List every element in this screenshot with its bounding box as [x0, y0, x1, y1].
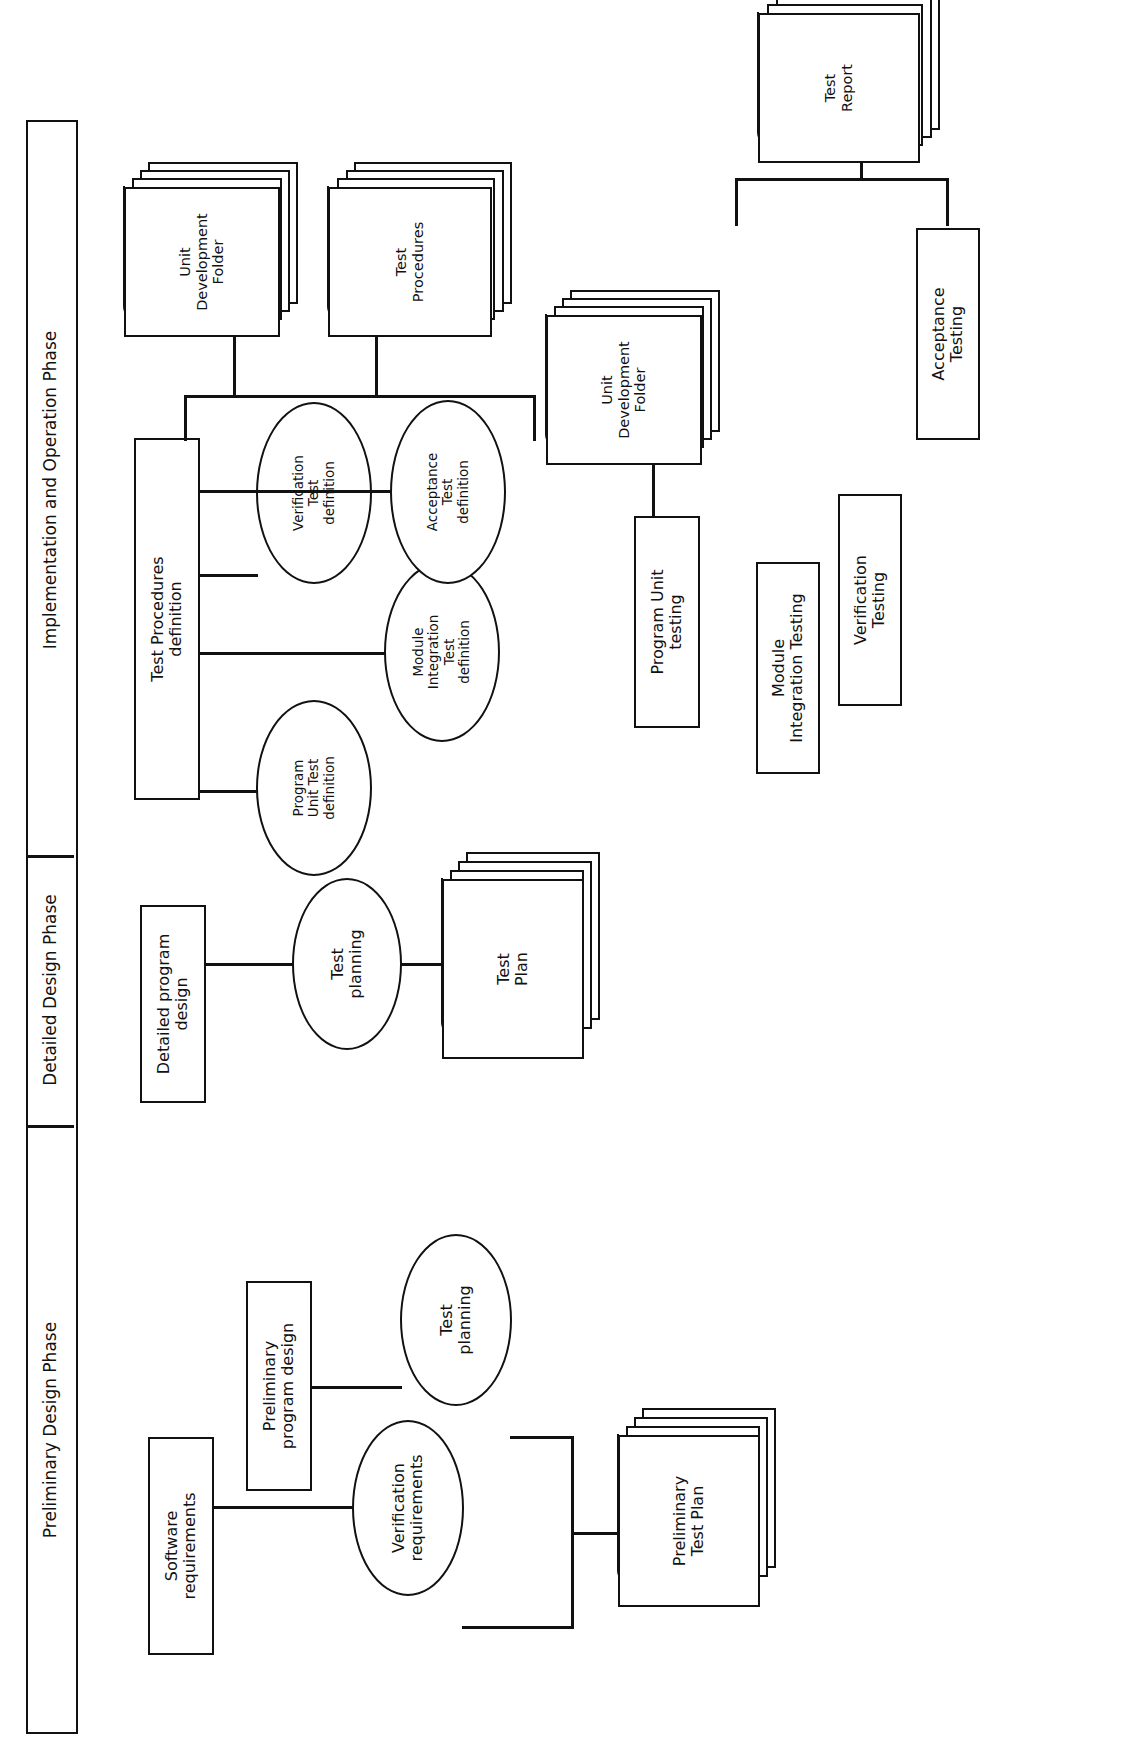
connector-udf-mid-to-program-unit-testing: [652, 465, 655, 517]
node-verification-testing-label: Verification Testing: [852, 555, 888, 645]
node-test-planning-preliminary: Test planning: [400, 1234, 512, 1406]
node-verification-test-definition-label: Verification Test definition: [291, 455, 337, 531]
node-detailed-program-design-label: Detailed program design: [155, 934, 191, 1075]
node-acceptance-test-definition-label: Acceptance Test definition: [425, 453, 471, 532]
doc-front-page: Test Procedures: [328, 187, 492, 337]
connector-tpd-module-integration: [200, 652, 386, 655]
node-preliminary-program-design: Preliminary program design: [246, 1281, 312, 1491]
node-verification-requirements-label: Verification requirements: [390, 1454, 426, 1561]
node-verification-test-definition: Verification Test definition: [256, 402, 372, 584]
doc-test-report: Test Report: [752, 0, 952, 174]
doc-front-page: Unit Development Folder: [546, 315, 702, 465]
node-module-integration-testing-label: Module Integration Testing: [770, 593, 806, 743]
doc-preliminary-test-plan: Preliminary Test Plan: [612, 1408, 776, 1614]
connector-test-report-bracket-left-stub: [735, 178, 738, 226]
node-verification-requirements: Verification requirements: [352, 1420, 464, 1596]
doc-unit-development-folder-top: Unit Development Folder: [118, 162, 308, 348]
diagram-canvas: Implementation and Operation Phase Detai…: [0, 0, 1126, 1753]
doc-unit-development-folder-top-label: Unit Development Folder: [177, 213, 227, 311]
connector-test-report-bracket-right-stub: [946, 178, 949, 226]
node-software-requirements-label: Software requirements: [163, 1492, 199, 1599]
doc-front-page: Test Plan: [442, 879, 584, 1059]
connector-detaileddesign-testplanning: [206, 963, 294, 966]
connector-testplanning-bracket: [510, 1436, 574, 1439]
node-module-integration-testing: Module Integration Testing: [756, 562, 820, 774]
connector-swreq-verifreq: [214, 1506, 354, 1509]
node-test-planning-detailed: Test planning: [292, 878, 402, 1050]
phase-divider-1: [26, 855, 74, 858]
doc-test-plan: Test Plan: [436, 852, 600, 1068]
node-test-planning-preliminary-label: Test planning: [438, 1285, 474, 1354]
doc-front-page: Test Report: [758, 13, 920, 163]
doc-test-procedures-label: Test Procedures: [393, 222, 426, 302]
node-verification-testing: Verification Testing: [838, 494, 902, 706]
connector-top-bracket-right-stub: [533, 395, 536, 441]
node-program-unit-test-definition-label: Program Unit Test definition: [291, 756, 337, 820]
phase-label-preliminary-design: Preliminary Design Phase: [40, 1322, 60, 1538]
doc-unit-development-folder-mid-label: Unit Development Folder: [599, 341, 649, 439]
node-program-unit-test-definition: Program Unit Test definition: [256, 700, 372, 876]
connector-top-bracket-left-stub: [184, 395, 187, 441]
node-acceptance-test-definition: Acceptance Test definition: [390, 400, 506, 584]
node-program-unit-testing-label: Program Unit testing: [649, 569, 685, 674]
doc-front-page: Preliminary Test Plan: [618, 1435, 760, 1607]
node-software-requirements: Software requirements: [148, 1437, 214, 1655]
doc-front-page: Unit Development Folder: [124, 187, 280, 337]
doc-preliminary-test-plan-label: Preliminary Test Plan: [671, 1476, 707, 1566]
node-detailed-program-design: Detailed program design: [140, 905, 206, 1103]
node-acceptance-testing-label: Acceptance Testing: [930, 287, 966, 380]
connector-tpd-program-unit: [200, 790, 258, 793]
connector-top-bracket-horizontal: [184, 395, 536, 398]
connector-verifreq-bracket: [462, 1626, 574, 1629]
node-test-planning-detailed-label: Test planning: [329, 929, 365, 998]
connector-tpd-acceptance: [200, 490, 392, 493]
node-module-integration-test-definition: Module Integration Test definition: [384, 562, 500, 742]
phase-divider-2: [26, 1125, 74, 1128]
node-program-unit-testing: Program Unit testing: [634, 516, 700, 728]
doc-test-procedures: Test Procedures: [322, 162, 522, 348]
connector-prelimdesign-testplanning: [312, 1386, 402, 1389]
node-test-procedures-definition: Test Procedures definition: [134, 438, 200, 800]
doc-unit-development-folder-mid: Unit Development Folder: [540, 290, 730, 476]
node-test-procedures-definition-label: Test Procedures definition: [149, 556, 185, 681]
connector-tpd-verification-test: [200, 574, 258, 577]
connector-test-report-bracket-horizontal: [735, 178, 949, 181]
node-preliminary-program-design-label: Preliminary program design: [261, 1323, 297, 1449]
doc-test-report-label: Test Report: [822, 64, 855, 112]
phase-label-implementation: Implementation and Operation Phase: [40, 331, 60, 650]
phase-label-detailed-design: Detailed Design Phase: [40, 894, 60, 1086]
node-acceptance-testing: Acceptance Testing: [916, 228, 980, 440]
node-module-integration-test-definition-label: Module Integration Test definition: [411, 615, 473, 689]
doc-test-plan-label: Test Plan: [495, 952, 531, 986]
